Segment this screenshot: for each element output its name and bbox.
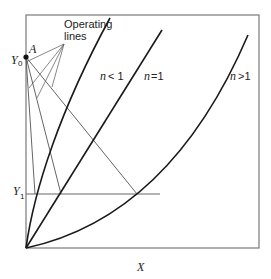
curve-label-n-greater-1-n: n bbox=[230, 69, 236, 83]
point-a-marker bbox=[23, 54, 28, 59]
x-axis-label: X bbox=[136, 260, 145, 274]
operating-lines-label-line2: lines bbox=[64, 30, 87, 42]
operating-line-n-less-1 bbox=[26, 57, 35, 194]
curve-n-eq-1 bbox=[26, 30, 162, 248]
curve-label-n-eq-1-rel: =1 bbox=[151, 70, 164, 82]
curve-n-greater-1 bbox=[26, 35, 248, 248]
y1-subscript: 1 bbox=[20, 192, 25, 201]
operating-lines-label-line1: Operating bbox=[64, 18, 112, 30]
curve-label-n-less-1-n: n bbox=[100, 69, 106, 83]
curve-label-n-less-1-rel: < 1 bbox=[108, 70, 124, 82]
curve-label-n-eq-1-n: n bbox=[144, 69, 150, 83]
label-leader-4 bbox=[52, 44, 64, 87]
point-a-label: A bbox=[28, 42, 37, 56]
equilibrium-operating-line-diagram: Operating lines A Y 0 Y 1 X n < 1 n =1 n… bbox=[0, 0, 271, 279]
curve-label-n-greater-1-rel: >1 bbox=[238, 70, 251, 82]
y0-subscript: 0 bbox=[18, 59, 23, 68]
label-leader-3 bbox=[37, 44, 64, 98]
